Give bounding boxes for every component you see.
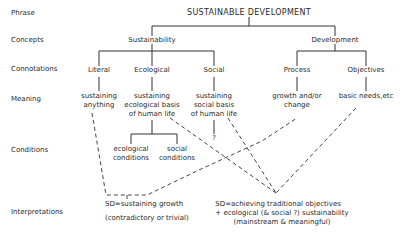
connotation-social: Social xyxy=(204,66,225,75)
concept-sustainability: Sustainability xyxy=(128,36,175,45)
row-label-conditions: Conditions xyxy=(11,146,48,155)
connotation-objectives: Objectives xyxy=(348,66,385,75)
meaning-ecological: sustaining ecological basis of human lif… xyxy=(124,92,179,119)
interpretation-right: SD=achieving traditional objectives + ec… xyxy=(215,200,348,227)
row-label-meaning: Meaning xyxy=(11,95,41,104)
row-label-concepts: Concepts xyxy=(11,36,44,45)
row-label-phrase: Phrase xyxy=(11,9,35,18)
condition-social-question: ? xyxy=(212,134,216,143)
condition-ecological: ecological conditions xyxy=(113,145,149,163)
phrase-node: SUSTAINABLE DEVELOPMENT xyxy=(187,8,311,17)
meaning-social: sustaining social basis of human life xyxy=(191,92,237,119)
row-label-interpretations: Interpretations xyxy=(11,208,63,217)
row-label-connotations: Connotations xyxy=(11,65,57,74)
condition-social: social conditions xyxy=(159,145,195,163)
interpretation-left: SD=sustaining growth (contradictory or t… xyxy=(105,200,189,223)
connotation-process: Process xyxy=(284,66,311,75)
connotation-ecological: Ecological xyxy=(134,66,169,75)
concept-development: Development xyxy=(311,36,358,45)
meaning-literal: sustaining anything xyxy=(81,92,117,110)
meaning-process: growth and/or change xyxy=(272,92,321,110)
connotation-literal: Literal xyxy=(88,66,110,75)
meaning-objectives: basic needs,etc xyxy=(339,92,394,101)
